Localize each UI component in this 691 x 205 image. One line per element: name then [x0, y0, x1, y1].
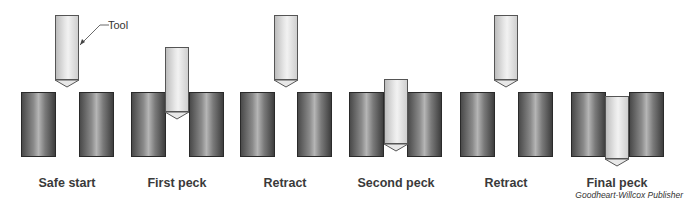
workpiece-left [131, 92, 166, 157]
workpiece-right [518, 92, 553, 157]
step-label: Retract [484, 176, 527, 190]
workpiece-left [240, 92, 275, 157]
workpiece-right [629, 92, 664, 157]
workpiece-left [460, 92, 495, 157]
publisher-credit: Goodheart-Willcox Publisher [575, 190, 683, 200]
step-label: Second peck [357, 176, 434, 190]
workpiece-right [297, 92, 332, 157]
callout-leader-arrow-icon [78, 20, 110, 48]
workpiece-right [407, 92, 442, 157]
tool-callout-label: Tool [108, 19, 128, 31]
workpiece-right [189, 92, 224, 157]
workpiece-left [21, 92, 56, 157]
step-label: Safe start [39, 176, 96, 190]
workpiece-left [349, 92, 384, 157]
workpiece-right [79, 92, 114, 157]
step-label: Retract [263, 176, 306, 190]
step-label: First peck [147, 176, 206, 190]
step-label: Final peck [586, 176, 647, 190]
peck-drilling-diagram: Safe start Tool First peck Retract [0, 0, 691, 205]
workpiece-left [571, 92, 606, 157]
